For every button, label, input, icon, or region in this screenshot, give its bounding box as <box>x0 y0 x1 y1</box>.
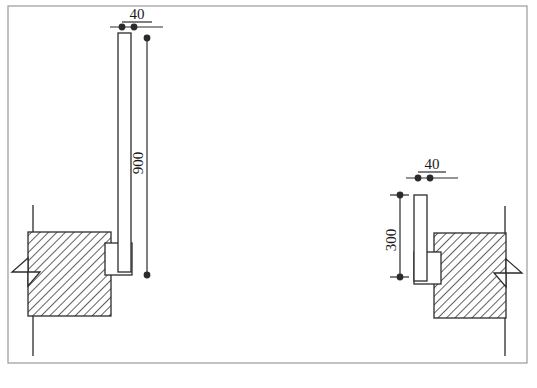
dimension-dot <box>397 274 404 281</box>
technical-drawing: 4090040300 <box>0 0 537 388</box>
dimension-left-height: 900 <box>130 35 150 279</box>
left-hatched-block <box>28 232 111 316</box>
dimension-label: 40 <box>130 6 145 22</box>
dimension-left-width: 40 <box>110 6 163 30</box>
dimension-dot <box>144 35 151 42</box>
dimension-dot <box>144 272 151 279</box>
dimension-dot <box>397 192 404 199</box>
dimension-layer: 4090040300 <box>110 6 458 280</box>
dimension-dot <box>119 24 126 31</box>
right-hatched-block <box>434 233 506 318</box>
dimension-label: 40 <box>425 156 440 172</box>
left-assembly <box>12 33 132 356</box>
dimension-right-width: 40 <box>406 156 458 181</box>
dimension-label: 900 <box>130 152 146 175</box>
drawing-canvas: 4090040300 <box>0 0 537 388</box>
dimension-label: 300 <box>383 229 399 252</box>
right-vertical-bar <box>414 195 427 281</box>
dimension-dot <box>131 24 138 31</box>
dimension-dot <box>427 175 434 182</box>
dimension-dot <box>415 175 422 182</box>
dimension-right-height: 300 <box>383 192 409 281</box>
right-assembly <box>414 195 522 356</box>
